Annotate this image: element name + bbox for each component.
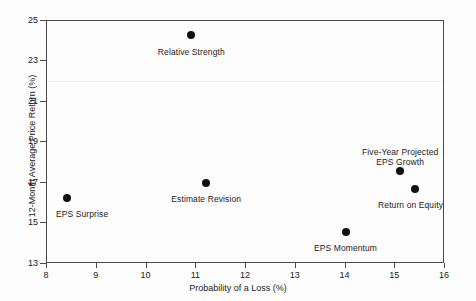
x-axis-title: Probability of a Loss (%) bbox=[0, 283, 476, 293]
data-label-eps-growth-line2: EPS Growth bbox=[376, 157, 424, 167]
x-tick-8 bbox=[46, 263, 47, 268]
x-tick-14 bbox=[345, 263, 346, 268]
data-point-eps-surprise[interactable] bbox=[63, 194, 71, 202]
y-axis-title: 12-Month Average Price Return (%) bbox=[27, 25, 37, 268]
x-tick-label-11: 11 bbox=[191, 270, 200, 280]
data-point-relative-strength[interactable] bbox=[187, 31, 195, 39]
data-point-return-on-equity[interactable] bbox=[411, 185, 419, 193]
plot-area: EPS Surprise Relative Strength Estimate … bbox=[46, 20, 444, 263]
x-tick-15 bbox=[394, 263, 395, 268]
x-tick-label-8: 8 bbox=[43, 270, 48, 280]
x-tick-10 bbox=[146, 263, 147, 268]
data-point-eps-growth[interactable] bbox=[396, 167, 404, 175]
x-tick-16 bbox=[444, 263, 445, 268]
x-tick-label-14: 14 bbox=[339, 270, 349, 280]
y-tick-label-25: 25 bbox=[18, 15, 38, 25]
x-tick-11 bbox=[195, 263, 196, 268]
data-label-eps-surprise: EPS Surprise bbox=[56, 209, 108, 219]
data-point-eps-momentum[interactable] bbox=[342, 228, 350, 236]
x-tick-12 bbox=[245, 263, 246, 268]
x-tick-label-13: 13 bbox=[290, 270, 300, 280]
x-tick-9 bbox=[96, 263, 97, 268]
data-label-eps-growth-line1: Five-Year Projected bbox=[362, 147, 438, 157]
x-tick-label-10: 10 bbox=[140, 270, 150, 280]
scatter-chart: 13 15 17 19 21 23 25 8 9 10 11 12 13 14 … bbox=[0, 0, 476, 301]
x-tick-label-16: 16 bbox=[439, 270, 449, 280]
gridline-22 bbox=[47, 81, 443, 82]
data-label-estimate-revision: Estimate Revision bbox=[171, 194, 241, 204]
data-point-estimate-revision[interactable] bbox=[202, 179, 210, 187]
x-tick-label-12: 12 bbox=[240, 270, 250, 280]
data-label-eps-momentum: EPS Momentum bbox=[314, 243, 377, 253]
x-tick-label-15: 15 bbox=[389, 270, 399, 280]
x-tick-label-9: 9 bbox=[93, 270, 98, 280]
data-label-return-on-equity: Return on Equity bbox=[378, 200, 443, 210]
x-tick-13 bbox=[295, 263, 296, 268]
data-label-relative-strength: Relative Strength bbox=[158, 47, 225, 57]
